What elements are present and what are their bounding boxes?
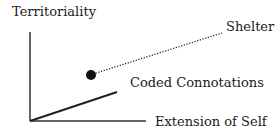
shelter-dotted-line xyxy=(93,33,222,74)
coded-connotations-label: Coded Connotations xyxy=(130,75,264,90)
x-axis-label: Extension of Self xyxy=(155,114,268,129)
y-axis-label: Territoriality xyxy=(12,4,97,19)
diagram-canvas: Territoriality Shelter Coded Connotation… xyxy=(0,0,276,136)
coded-connotations-line xyxy=(30,92,117,121)
shelter-point xyxy=(86,70,96,80)
shelter-label: Shelter xyxy=(226,19,275,34)
